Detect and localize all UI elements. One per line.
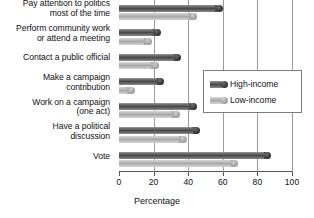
category-label: Have a political discussion: [53, 122, 110, 141]
gridline-40: [188, 0, 189, 172]
bar-end-cap-icon: [145, 38, 152, 45]
category-label: Vote: [93, 152, 110, 162]
x-tick-label-40: 40: [183, 177, 193, 187]
x-tick-100: [292, 172, 293, 176]
category-label: Work on a campaign (one act): [32, 98, 110, 117]
x-tick-label-0: 0: [117, 177, 122, 187]
legend-label-high-income: High-income: [230, 79, 278, 89]
bar-end-cap-icon: [216, 5, 223, 12]
bar-low-income: [119, 62, 155, 69]
x-tick-label-60: 60: [218, 177, 228, 187]
bar-end-cap-icon: [152, 62, 159, 69]
bar-end-cap-icon: [190, 103, 197, 110]
category-label: Perform community work or attend a meeti…: [16, 24, 110, 43]
x-tick-20: [154, 172, 155, 176]
category-label: Pay attention to politics most of the ti…: [23, 0, 110, 19]
bar-end-cap-icon: [180, 136, 187, 143]
bar-low-income: [119, 160, 235, 167]
legend-item-low-income: Low-income: [210, 92, 295, 108]
bar-high-income: [119, 29, 157, 36]
bar-high-income: [119, 152, 268, 159]
x-axis: 020406080100: [119, 172, 293, 192]
x-tick-label-80: 80: [253, 177, 263, 187]
bar-end-cap-icon: [173, 111, 180, 118]
bar-end-cap-icon: [154, 29, 161, 36]
x-axis-title: Percentage: [0, 196, 314, 206]
legend-swatch-high-income-icon: [210, 81, 224, 88]
x-tick-label-100: 100: [285, 177, 299, 187]
bar-low-income: [119, 111, 176, 118]
bar-high-income: [119, 103, 193, 110]
bar-end-cap-icon: [174, 54, 181, 61]
bar-low-income: [119, 136, 183, 143]
bar-high-income: [119, 54, 178, 61]
bar-end-cap-icon: [264, 152, 271, 159]
x-tick-80: [257, 172, 258, 176]
x-tick-40: [188, 172, 189, 176]
bar-end-cap-icon: [193, 127, 200, 134]
legend-item-high-income: High-income: [210, 76, 295, 92]
bar-end-cap-icon: [231, 160, 238, 167]
category-axis-labels: Pay attention to politics most of the ti…: [0, 0, 113, 172]
x-tick-60: [223, 172, 224, 176]
x-tick-label-20: 20: [149, 177, 159, 187]
bar-chart: Pay attention to politics most of the ti…: [0, 0, 314, 218]
bar-end-cap-icon: [190, 13, 197, 20]
bar-end-cap-icon: [128, 87, 135, 94]
bar-high-income: [119, 127, 197, 134]
legend-swatch-low-income-icon: [210, 97, 224, 104]
bar-low-income: [119, 13, 193, 20]
bar-low-income: [119, 38, 148, 45]
bar-high-income: [119, 78, 161, 85]
category-label: Make a campaign contribution: [43, 73, 110, 92]
gridline-20: [154, 0, 155, 172]
bar-low-income: [119, 87, 131, 94]
category-label: Contact a public official: [23, 53, 110, 63]
legend-label-low-income: Low-income: [230, 95, 276, 105]
legend: High-income Low-income: [203, 70, 302, 113]
bar-end-cap-icon: [157, 78, 164, 85]
x-tick-0: [119, 172, 120, 176]
bar-high-income: [119, 5, 219, 12]
